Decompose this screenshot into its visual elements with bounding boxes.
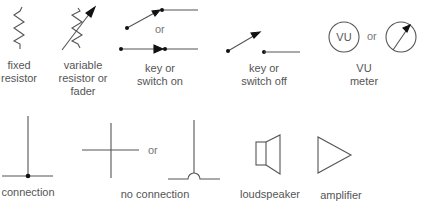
amplifier-icon: [318, 137, 351, 173]
vu-glyph-text: VU: [336, 31, 351, 43]
vu-meter-label: VU meter: [344, 62, 384, 88]
variable-resistor-label: variable resistor or fader: [53, 59, 113, 98]
no-connection-hop-icon: [168, 120, 220, 179]
no-connection-cross-icon: [82, 123, 139, 178]
symbols-canvas: VU: [0, 0, 422, 204]
loudspeaker-icon: [256, 135, 280, 174]
loudspeaker-label: loudspeaker: [236, 188, 304, 201]
or-label-vu: or: [367, 30, 377, 42]
variable-resistor-icon: [62, 7, 95, 50]
no-connection-label: no connection: [115, 188, 195, 201]
or-label-no-connection: or: [148, 144, 158, 156]
amplifier-label: amplifier: [316, 189, 366, 202]
switch-off-label: key or switch off: [232, 62, 296, 88]
fixed-resistor-icon: [14, 7, 24, 49]
or-label-switch: or: [155, 23, 165, 35]
connection-label: connection: [0, 186, 56, 199]
switch-off-icon: [226, 32, 300, 54]
switch-on-label: key or switch on: [130, 62, 190, 88]
fixed-resistor-label: fixed resistor: [0, 59, 38, 85]
connection-icon: [2, 116, 53, 178]
